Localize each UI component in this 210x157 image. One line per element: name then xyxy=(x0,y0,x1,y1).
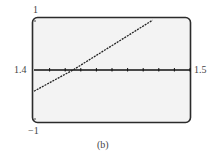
y-min-label: −1 xyxy=(28,126,39,136)
figure-caption: (b) xyxy=(97,140,109,150)
x-min-label: 1.4 xyxy=(14,65,27,75)
corner-pixel-top xyxy=(34,20,36,22)
y-max-label: 1 xyxy=(33,5,38,15)
corner-pixel-bottom xyxy=(34,118,36,120)
x-max-label: 1.5 xyxy=(194,65,207,75)
